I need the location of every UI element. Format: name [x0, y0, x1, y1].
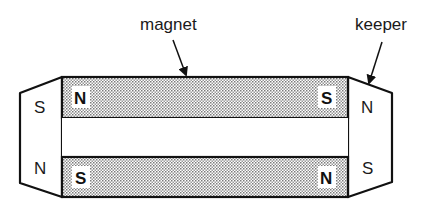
gap	[62, 118, 348, 157]
keeper-label: keeper	[355, 15, 407, 34]
magnet-label: magnet	[140, 15, 197, 34]
left-keeper	[20, 77, 62, 197]
left-keeper-top-pole: S	[34, 98, 45, 117]
top-bar-left-pole: N	[74, 89, 86, 108]
bottom-bar-left-pole: S	[75, 169, 86, 188]
magnet-arrow	[173, 40, 186, 75]
bottom-magnet-bar	[62, 157, 348, 197]
left-keeper-bottom-pole: N	[34, 159, 46, 178]
top-magnet-bar	[62, 77, 348, 118]
keeper-arrow	[369, 42, 382, 83]
magnet-keeper-diagram: N S S N S N N S magnet keeper	[0, 0, 424, 209]
right-keeper	[348, 77, 392, 197]
right-keeper-top-pole: N	[361, 98, 373, 117]
top-bar-right-pole: S	[321, 89, 332, 108]
bottom-bar-right-pole: N	[320, 169, 332, 188]
right-keeper-bottom-pole: S	[362, 159, 373, 178]
